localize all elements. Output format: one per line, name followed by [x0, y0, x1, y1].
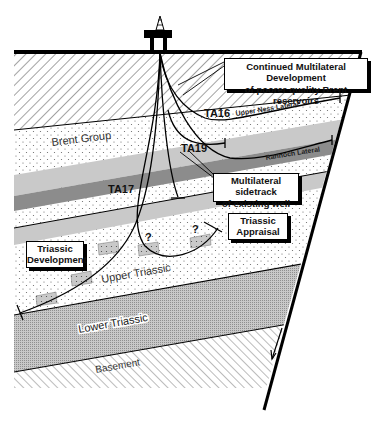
callout-triassic-appraisal: Triassic Appraisal	[228, 213, 288, 240]
callout-sidetrack-line2: of existing well	[214, 198, 298, 209]
callout-brent-line2: of poorer quality Brent reservoirs	[225, 84, 367, 107]
callout-triassic-development: Triassic Development	[26, 241, 84, 268]
callout-appraisal-line1: Triassic	[229, 215, 287, 226]
callout-sidetrack-line1: Multilateral sidetrack	[214, 175, 298, 198]
cross-section-diagram: Brent Group Upper Triassic Lower Triassi…	[0, 0, 380, 421]
callout-development-line1: Triassic	[27, 243, 83, 254]
well-label-ta16: TA16	[204, 107, 230, 119]
callout-appraisal-line2: Appraisal	[229, 226, 287, 237]
callout-brent-line1: Continued Multilateral Development	[225, 61, 367, 84]
callout-development-line2: Development	[27, 254, 83, 265]
offshore-platform-icon	[144, 16, 172, 51]
unknown-marker: ?	[192, 223, 199, 235]
unknown-marker: ?	[145, 231, 152, 243]
callout-multilateral-sidetrack: Multilateral sidetrack of existing well	[213, 173, 299, 202]
well-label-ta19: TA19	[181, 142, 207, 154]
callout-brent-multilateral: Continued Multilateral Development of po…	[224, 58, 368, 90]
well-label-ta17: TA17	[108, 183, 134, 195]
